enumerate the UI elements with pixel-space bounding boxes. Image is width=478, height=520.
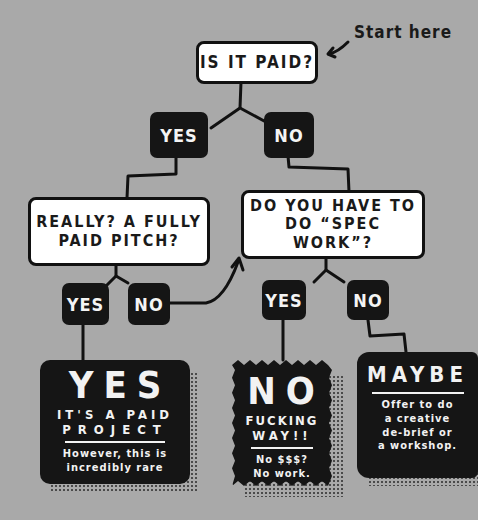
- answer-spec-work-no: NO: [347, 280, 389, 320]
- result-maybe-note-line1: Offer to do: [357, 398, 478, 412]
- answer-label: YES: [160, 125, 197, 146]
- result-maybe-headline: MAYBE: [357, 364, 478, 386]
- flowchart: Start here IS IT PAID? YES NO REALLY? A …: [0, 0, 478, 520]
- divider: [372, 392, 464, 394]
- divider: [251, 447, 313, 449]
- result-yes-note-line1: However, this is: [40, 447, 190, 461]
- answer-is-it-paid-yes: YES: [150, 112, 208, 158]
- result-maybe-note-line3: de-brief or: [357, 426, 478, 440]
- result-yes-note-line2: incredibly rare: [40, 461, 190, 475]
- result-no-subtitle-line1: FUCKING: [232, 414, 332, 429]
- result-yes-subtitle-line1: IT'S A PAID: [40, 408, 190, 423]
- result-maybe-note-line2: a creative: [357, 412, 478, 426]
- answer-fully-paid-pitch-no: NO: [128, 283, 170, 325]
- question-text: IS IT PAID?: [200, 53, 314, 73]
- result-no-card: NO FUCKING WAY!! No $$$? No work.: [232, 360, 332, 486]
- question-fully-paid-pitch: REALLY? A FULLY PAID PITCH?: [28, 197, 210, 266]
- result-yes-headline: YES: [40, 366, 190, 404]
- answer-is-it-paid-no: NO: [264, 112, 314, 158]
- question-text-line1: REALLY? A FULLY: [36, 213, 202, 231]
- result-no-note-line1: No $$$?: [232, 453, 332, 467]
- result-maybe-card: MAYBE Offer to do a creative de-brief or…: [357, 352, 478, 478]
- result-no-note-line2: No work.: [232, 467, 332, 481]
- result-yes-card: YES IT'S A PAID PROJECT However, this is…: [40, 360, 190, 484]
- answer-label: NO: [353, 290, 382, 311]
- question-is-it-paid: IS IT PAID?: [196, 41, 318, 84]
- result-maybe-note-line4: a workshop.: [357, 439, 478, 453]
- result-yes-subtitle-line2: PROJECT: [40, 423, 190, 438]
- answer-label: YES: [67, 294, 104, 315]
- result-no-subtitle-line2: WAY!!: [232, 429, 332, 444]
- question-text-line1: DO YOU HAVE TO: [250, 197, 416, 215]
- answer-label: NO: [274, 125, 303, 146]
- result-no-headline: NO: [232, 372, 332, 410]
- answer-label: NO: [134, 294, 163, 315]
- question-text-line2: DO “SPEC WORK”?: [244, 215, 422, 252]
- answer-spec-work-yes: YES: [262, 280, 306, 320]
- question-text-line2: PAID PITCH?: [58, 232, 179, 250]
- answer-label: YES: [265, 290, 302, 311]
- answer-fully-paid-pitch-yes: YES: [62, 283, 109, 325]
- question-spec-work: DO YOU HAVE TO DO “SPEC WORK”?: [241, 190, 425, 259]
- start-here-annotation: Start here: [354, 22, 452, 42]
- divider: [65, 441, 165, 443]
